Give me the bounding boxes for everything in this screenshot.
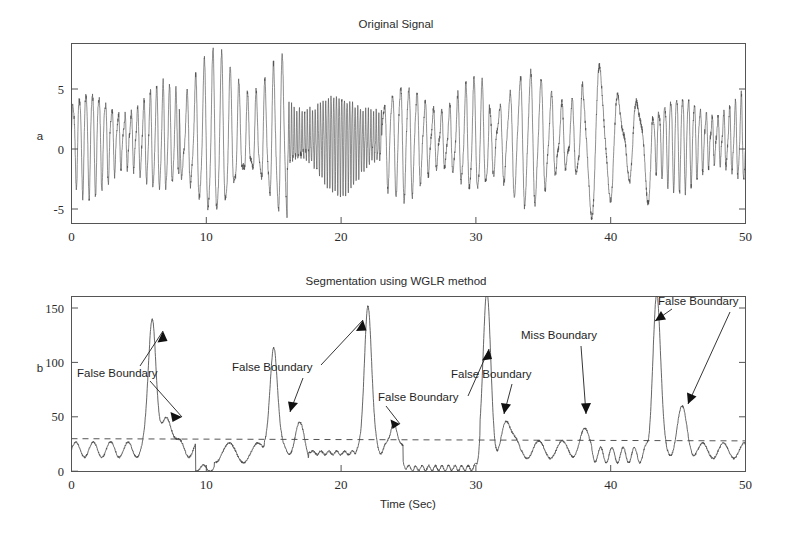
panel-original-signal: Original Signal 5 0 -5 a 0 10 20 30 40 [37,18,752,244]
annotation-layer: False Boundary False Boundary False Boun… [77,295,739,429]
bottom-panel-title: Segmentation using WGLR method [306,275,487,287]
bottom-y-ticks [72,308,746,471]
top-xtick-40: 40 [604,229,617,244]
annotation-label: False Boundary [378,391,459,403]
bottom-xtick-10: 10 [200,477,213,492]
top-xtick-20: 20 [335,229,348,244]
wglr-statistic-trace [72,297,746,472]
annotation-false-boundary-5[interactable]: False Boundary [655,295,739,404]
annotation-false-boundary-1[interactable]: False Boundary [77,331,182,422]
bottom-xtick-0: 0 [68,477,75,492]
annotation-false-boundary-2-leader [321,320,367,365]
original-signal-trace [72,48,746,220]
bottom-xtick-20: 20 [335,477,348,492]
annotation-false-boundary-4[interactable]: False Boundary [451,368,532,414]
annotation-label: Miss Boundary [521,329,597,341]
bottom-x-axis-label: Time (Sec) [380,498,436,510]
annotation-label: False Boundary [77,367,158,379]
top-ytick-0: 0 [58,143,64,157]
bottom-plot-frame [72,297,746,472]
threshold-dashed-line [72,439,746,441]
annotation-label: False Boundary [451,368,532,380]
bottom-ytick-100: 100 [45,356,64,370]
top-ytick-minus5: -5 [54,203,64,217]
bottom-xtick-30: 30 [469,477,482,492]
bottom-xtick-40: 40 [604,477,617,492]
top-xtick-30: 30 [469,229,482,244]
bottom-ytick-50: 50 [52,410,65,424]
top-x-ticks [72,217,746,224]
top-xtick-50: 50 [739,229,752,244]
bottom-ytick-0: 0 [58,465,64,479]
bottom-xtick-50: 50 [739,477,752,492]
figure-canvas: Original Signal 5 0 -5 a 0 10 20 30 40 [0,0,792,534]
annotation-label: False Boundary [658,295,739,307]
annotation-label: False Boundary [232,361,313,373]
top-panel-title: Original Signal [359,18,434,30]
bottom-y-axis-label: b [37,362,43,374]
annotation-false-boundary-2[interactable]: False Boundary [232,361,313,412]
top-y-axis-label: a [37,130,44,142]
top-xtick-10: 10 [200,229,213,244]
bottom-ytick-150: 150 [45,302,64,316]
top-xtick-0: 0 [68,229,75,244]
top-plot-frame [72,44,746,224]
annotation-miss-boundary[interactable]: Miss Boundary [521,329,597,414]
top-y-ticks [72,89,746,209]
top-ytick-5: 5 [58,83,64,97]
annotation-false-boundary-3[interactable]: False Boundary [378,349,492,429]
